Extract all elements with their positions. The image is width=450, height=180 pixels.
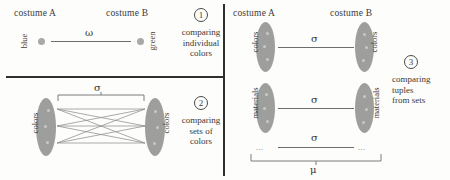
- panel1-relation-line: [51, 41, 131, 42]
- panel2-caption: comparing sets of colors: [166, 115, 236, 147]
- panel3-ellipsis-left: ...: [256, 143, 264, 152]
- panel2-caption-line-1: comparing: [166, 115, 236, 126]
- panel3-row2-relation-symbol: σ: [311, 94, 318, 105]
- panel3-caption: comparing tuples from sets: [392, 74, 450, 106]
- panel1-caption-line-3: colors: [166, 48, 236, 59]
- panel1-number: 1: [194, 8, 208, 22]
- panel3-caption-line-1: comparing: [392, 74, 450, 85]
- similarity-comparison-figure: costume A costume B blue ω green 1 compa…: [0, 0, 450, 180]
- panel3-row1-left-label: colors: [250, 25, 260, 59]
- panel3-caption-line-2: tuples: [392, 85, 450, 96]
- panel1-caption: comparing individual colors: [166, 27, 236, 59]
- panel3-number: 3: [404, 55, 418, 69]
- panel2-bipartite-mesh: [57, 104, 145, 152]
- panel1-caption-line-2: individual: [166, 38, 236, 49]
- panel3-header-costume-b: costume B: [330, 8, 372, 18]
- panel2-caption-line-2: sets of: [166, 126, 236, 137]
- panel1-relation-symbol: ω: [85, 27, 93, 38]
- panel3-header-costume-a: costume A: [233, 8, 275, 18]
- panel3-tail-relation-line: [278, 147, 354, 148]
- panel3-row2-left-label: materials: [250, 79, 260, 127]
- panel1-right-label: green: [147, 26, 157, 56]
- horizontal-divider: [6, 76, 224, 78]
- panel3-row2-right-label: materials: [371, 79, 381, 127]
- panel1-left-dot: [38, 38, 45, 45]
- panel3-group-symbol: μ: [310, 164, 317, 175]
- panel2-sigma-bracket: [57, 92, 145, 102]
- panel1-left-label: blue: [19, 28, 29, 54]
- panel1-header-costume-a: costume A: [14, 8, 56, 18]
- panel1-right-dot: [137, 38, 144, 45]
- panel3-caption-line-3: from sets: [392, 95, 450, 106]
- panel3-row1-relation-symbol: σ: [311, 33, 318, 44]
- panel3-tail-symbol: σ: [311, 132, 318, 143]
- panel1-caption-line-1: comparing: [166, 27, 236, 38]
- panel3-row1-relation-line: [278, 47, 354, 48]
- panel2-left-label: colors: [30, 104, 40, 142]
- vertical-divider: [223, 4, 225, 176]
- panel3-ellipsis-right: ...: [358, 143, 366, 152]
- panel3-row2-relation-line: [278, 108, 354, 109]
- panel2-number: 2: [194, 96, 208, 110]
- panel1-header-costume-b: costume B: [106, 8, 148, 18]
- panel2-caption-line-3: colors: [166, 136, 236, 147]
- panel3-row1-right-label: colors: [369, 25, 379, 59]
